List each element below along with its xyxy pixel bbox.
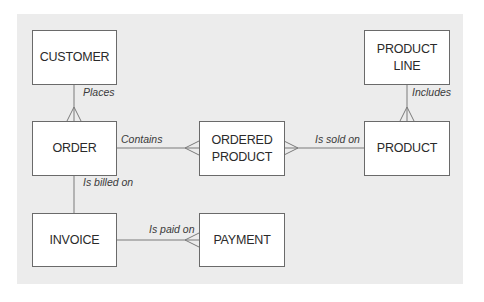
relationship-label-is-paid-on: Is paid on bbox=[149, 223, 195, 235]
relationship-label-is-billed-on: Is billed on bbox=[83, 176, 133, 188]
entity-label: PRODUCT LINE bbox=[377, 41, 437, 74]
entity-customer: CUSTOMER bbox=[32, 30, 117, 85]
entity-ordered-product: ORDERED PRODUCT bbox=[199, 121, 285, 176]
entity-product: PRODUCT bbox=[364, 121, 450, 176]
entity-label: PAYMENT bbox=[213, 232, 270, 248]
relationship-label-places: Places bbox=[83, 86, 115, 98]
entity-label: ORDER bbox=[52, 140, 96, 156]
entity-product-line: PRODUCT LINE bbox=[364, 30, 450, 85]
entity-order: ORDER bbox=[32, 121, 117, 176]
entity-label: PRODUCT bbox=[377, 140, 437, 156]
entity-label: ORDERED PRODUCT bbox=[211, 132, 272, 165]
relationship-label-includes: Includes bbox=[412, 86, 451, 98]
entity-label: INVOICE bbox=[50, 232, 100, 248]
relationship-label-is-sold-on: Is sold on bbox=[315, 133, 360, 145]
relationship-label-contains: Contains bbox=[121, 133, 162, 145]
entity-payment: PAYMENT bbox=[199, 213, 285, 267]
entity-label: CUSTOMER bbox=[40, 49, 110, 65]
entity-invoice: INVOICE bbox=[32, 213, 117, 267]
